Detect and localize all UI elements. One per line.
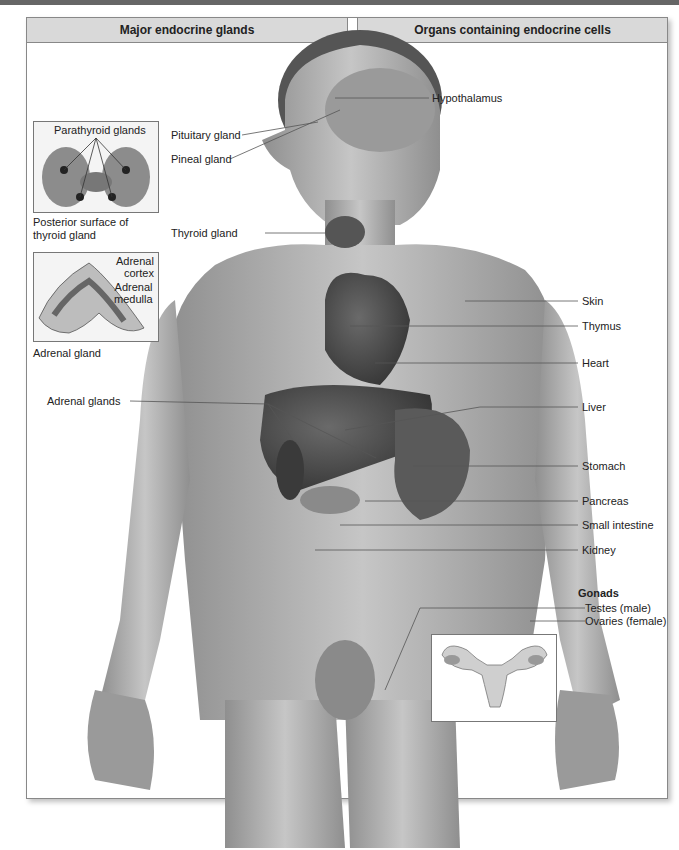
adrenal-inset: Adrenalcortex Adrenalmedulla [33,252,159,342]
adrenal-cortex-label: Adrenalcortex [116,255,154,279]
thyroid-inset-caption: Posterior surface of thyroid gland [33,216,128,242]
female-reproductive-inset [431,634,557,722]
pineal-gland-label: Pineal gland [171,153,232,165]
caption-line-2: thyroid gland [33,229,128,242]
small-intestine-label: Small intestine [582,519,654,531]
parathyroid-glands-label: Parathyroid glands [54,124,146,136]
pituitary-gland-label: Pituitary gland [171,129,241,141]
skin-label: Skin [582,295,603,307]
pancreas-label: Pancreas [582,495,628,507]
caption-line-1: Posterior surface of [33,216,128,229]
adrenal-glands-label: Adrenal glands [47,395,120,407]
stomach-label: Stomach [582,460,625,472]
kidney-label: Kidney [582,544,616,556]
thymus-label: Thymus [582,320,621,332]
gonads-heading: Gonads [578,587,619,599]
adrenal-medulla-label: Adrenalmedulla [114,281,153,305]
liver-label: Liver [582,401,606,413]
head [262,30,442,225]
adrenal-inset-caption: Adrenal gland [33,347,101,360]
hypothalamus-label: Hypothalamus [432,92,502,104]
heart-label: Heart [582,357,609,369]
uterus-ovaries-illustration [432,635,556,721]
thyroid-gland-label: Thyroid gland [171,227,238,239]
ovaries-label: Ovaries (female) [585,615,666,627]
thyroid-inset: Parathyroid glands [33,121,159,213]
testes-label: Testes (male) [585,602,651,614]
